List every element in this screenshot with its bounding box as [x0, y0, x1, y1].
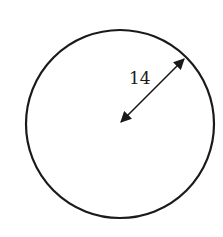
- circle: [26, 30, 214, 218]
- radius-label: 14: [129, 68, 151, 88]
- circle-diagram: 14: [0, 0, 223, 237]
